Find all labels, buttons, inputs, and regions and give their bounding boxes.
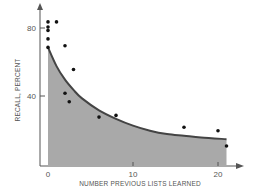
y-axis-label: RECALL, PERCENT (14, 59, 21, 122)
data-point (216, 129, 220, 133)
y-tick-label-40: 40 (27, 92, 36, 101)
data-point (46, 25, 50, 29)
data-point (46, 37, 50, 41)
data-point (55, 20, 59, 24)
x-axis-arrow-icon (236, 163, 244, 169)
y-axis-arrow-icon (37, 3, 43, 10)
data-point (46, 29, 50, 33)
data-point (114, 114, 118, 118)
data-point (46, 20, 50, 24)
data-point (225, 144, 229, 148)
y-tick-label-80: 80 (27, 24, 36, 33)
x-tick-label-10: 10 (129, 170, 138, 179)
data-point (72, 68, 76, 72)
data-point (182, 126, 186, 130)
x-tick-label-0: 0 (46, 170, 51, 179)
data-point (46, 46, 50, 50)
data-point (63, 44, 67, 48)
data-point (97, 115, 101, 119)
x-axis-label: NUMBER PREVIOUS LISTS LEARNED (79, 180, 201, 187)
data-point (63, 92, 67, 96)
data-point (67, 100, 71, 104)
x-tick-label-20: 20 (214, 170, 223, 179)
chart: 80 40 0 10 20 NUMBER PREVIOUS LISTS LEAR… (0, 0, 259, 193)
shaded-area (48, 47, 227, 165)
